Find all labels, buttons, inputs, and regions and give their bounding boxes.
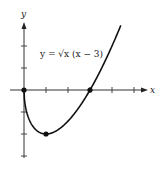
point-minimum	[43, 131, 48, 136]
x-axis-label: x	[150, 85, 155, 95]
y-axis-label: y	[20, 9, 27, 19]
point-root	[87, 87, 92, 92]
y-axis-arrow-icon	[22, 22, 27, 29]
x-axis-arrow-icon	[141, 88, 148, 93]
point-origin	[21, 87, 26, 92]
function-curve	[24, 25, 121, 134]
equation-label: y = √x (x − 3)	[39, 49, 103, 59]
function-graph: x y y = √x (x − 3)	[0, 0, 158, 169]
